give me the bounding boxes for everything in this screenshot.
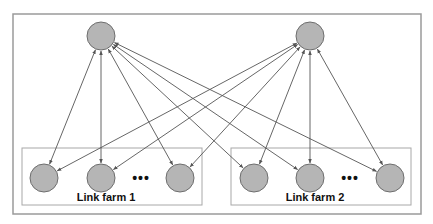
link-farm-diagram: •••Link farm 1•••Link farm 2 xyxy=(0,0,433,224)
f2-n1-node xyxy=(240,164,268,192)
link-farm-1-label: Link farm 1 xyxy=(77,191,136,203)
edge-hub-1-f1-n1 xyxy=(50,50,96,164)
f2-n2-node xyxy=(296,164,324,192)
f2-n3-node xyxy=(376,164,404,192)
f1-n2-node xyxy=(87,164,115,192)
edge-hub-2-f1-n1 xyxy=(57,43,297,171)
outer-frame xyxy=(13,14,421,214)
nodes xyxy=(30,22,404,192)
f1-n1-node xyxy=(30,164,58,192)
ellipsis-icon: ••• xyxy=(132,170,150,186)
link-farm-2-label: Link farm 2 xyxy=(286,191,345,203)
edges xyxy=(50,43,383,172)
ellipsis-icon: ••• xyxy=(341,170,359,186)
hub-2-node xyxy=(296,22,324,50)
hub-1-node xyxy=(87,22,115,50)
edge-hub-2-f1-n3 xyxy=(190,47,300,167)
f1-n3-node xyxy=(166,164,194,192)
